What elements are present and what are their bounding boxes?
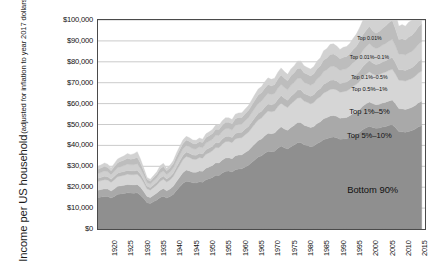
x-axis-tick-label: 1980 (306, 240, 315, 256)
x-axis-tick-label: 1940 (175, 240, 184, 256)
y-axis-tick-label: $70,000 (67, 77, 93, 86)
y-axis-tick-label: $20,000 (67, 182, 93, 191)
y-axis-tick-labels: $0$10,000$20,000$30,000$40,000$50,000$60… (0, 0, 96, 269)
stacked-area-chart (98, 20, 425, 229)
y-axis-tick-label: $40,000 (67, 140, 93, 149)
x-axis-tick-label: 1975 (290, 240, 299, 256)
plot-area: Top 0.01%Top 0.01%–0.1%Top 0.1%–0.5%Top … (97, 19, 426, 230)
x-axis-tick-labels: 1920192519301935194019451950195519601965… (97, 230, 426, 269)
y-axis-tick-label: $50,000 (67, 119, 93, 128)
x-axis-tick-label: 1920 (110, 240, 119, 256)
y-axis-tick-label: $100,000 (63, 15, 93, 24)
x-axis-tick-label: 1950 (208, 240, 217, 256)
x-axis-tick-label: 1945 (192, 240, 201, 256)
x-axis-tick-label: 1965 (257, 240, 266, 256)
y-axis-tick-label: $80,000 (67, 56, 93, 65)
x-axis-tick-label: 2005 (388, 240, 397, 256)
x-axis-tick-label: 2015 (420, 240, 429, 256)
x-axis-tick-label: 2010 (404, 240, 413, 256)
y-axis-tick-label: $0 (85, 224, 93, 233)
y-axis-tick-label: $10,000 (67, 203, 93, 212)
x-axis-tick-label: 1985 (322, 240, 331, 256)
y-axis-tick-label: $60,000 (67, 98, 93, 107)
x-axis-tick-label: 1960 (241, 240, 250, 256)
x-axis-tick-label: 2000 (371, 240, 380, 256)
y-axis-tick-label: $30,000 (67, 161, 93, 170)
x-axis-tick-label: 1970 (273, 240, 282, 256)
x-axis-tick-label: 1990 (339, 240, 348, 256)
x-axis-tick-label: 1935 (159, 240, 168, 256)
x-axis-tick-label: 1955 (224, 240, 233, 256)
y-axis-tick-label: $90,000 (67, 35, 93, 44)
x-axis-tick-label: 1930 (143, 240, 152, 256)
x-axis-tick-label: 1925 (126, 240, 135, 256)
chart-figure: Income per US household (adjusted for in… (0, 0, 448, 269)
x-axis-tick-label: 1995 (355, 240, 364, 256)
